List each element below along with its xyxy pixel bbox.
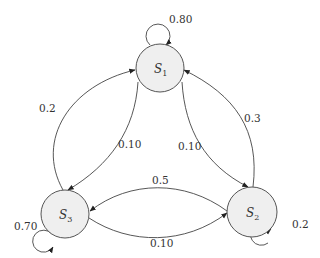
self-loop-s3	[33, 230, 53, 252]
state-node-s3: S3	[41, 190, 89, 238]
label-s2-s1: 0.3	[244, 112, 261, 124]
label-s1-s1: 0.80	[169, 13, 192, 25]
edge-s3-to-s2	[89, 213, 227, 238]
loop-s1-arc	[146, 24, 170, 45]
label-s2-s2: 0.2	[292, 218, 309, 230]
label-s1-s3: 0.10	[118, 138, 141, 150]
state-diagram: S1 S2 S3 0.80 0.2 0.10 0.3 0.10 0.5 0.10…	[0, 0, 320, 258]
label-s3-s1: 0.2	[39, 102, 56, 114]
edge-s2-to-s1	[184, 70, 254, 187]
loop-s3-arc	[33, 230, 53, 252]
edge-s1-to-s2	[182, 82, 248, 187]
state-node-s2: S2	[227, 187, 277, 237]
edge-s3-to-s1	[53, 70, 135, 190]
edge-s2-to-s3	[90, 188, 227, 211]
state-node-s1: S1	[136, 44, 184, 92]
self-loop-s1	[146, 24, 170, 45]
label-s3-s3: 0.70	[14, 220, 37, 232]
label-s2-s3: 0.5	[152, 174, 169, 186]
label-s1-s2: 0.10	[178, 140, 201, 152]
label-s3-s2: 0.10	[150, 237, 173, 249]
edge-s1-to-s3	[68, 82, 138, 190]
